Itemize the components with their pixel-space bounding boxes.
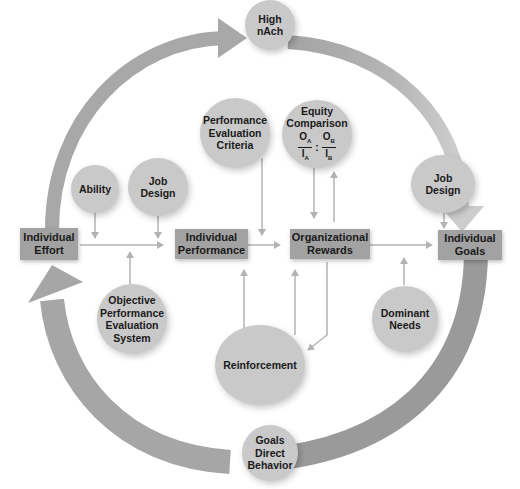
circle-label: Job bbox=[149, 175, 168, 188]
circle-label: Evaluation bbox=[105, 319, 158, 332]
box-organizational-rewards: Organizational Rewards bbox=[290, 229, 370, 259]
box-individual-goals: Individual Goals bbox=[438, 230, 502, 260]
equity-formula: OA IA : OB IB bbox=[298, 131, 336, 164]
circle-label: Design bbox=[425, 184, 460, 197]
circle-label: Evaluation bbox=[208, 127, 261, 140]
circle-label: System bbox=[113, 332, 150, 345]
o-a: O bbox=[299, 131, 307, 142]
connector-rewards-reinforcement bbox=[308, 262, 327, 350]
box-label: Individual bbox=[186, 231, 237, 244]
box-label: Individual bbox=[23, 231, 74, 244]
ratio-separator: : bbox=[315, 141, 319, 154]
circle-label: nAch bbox=[257, 25, 283, 38]
box-label: Goals bbox=[455, 245, 486, 258]
circle-label: Objective bbox=[108, 294, 155, 307]
circle-label: Needs bbox=[389, 319, 421, 332]
circle-goals-direct-behavior: Goals Direct Behavior bbox=[242, 425, 298, 481]
circle-equity-comparison: Equity Comparison OA IA : OB IB bbox=[282, 100, 352, 168]
box-individual-effort: Individual Effort bbox=[20, 228, 78, 260]
circle-job-design-right: Job Design bbox=[411, 155, 475, 213]
circle-label: Performance bbox=[100, 307, 164, 320]
sub: B bbox=[328, 155, 332, 161]
box-individual-performance: Individual Performance bbox=[175, 229, 248, 259]
circle-label: Behavior bbox=[248, 459, 293, 472]
box-label: Performance bbox=[178, 244, 245, 257]
circle-label: Dominant bbox=[381, 307, 429, 320]
circle-reinforcement: Reinforcement bbox=[215, 325, 305, 405]
circle-label: High bbox=[258, 13, 281, 26]
circle-performance-evaluation-criteria: Performance Evaluation Criteria bbox=[200, 98, 270, 168]
circle-label: Job bbox=[434, 172, 453, 185]
circle-label: Design bbox=[140, 187, 175, 200]
sub: B bbox=[331, 138, 335, 144]
box-label: Organizational bbox=[292, 231, 368, 244]
circle-label: Goals bbox=[255, 434, 284, 447]
circle-high-nach: High nAch bbox=[245, 0, 295, 50]
box-label: Rewards bbox=[307, 244, 353, 257]
circle-job-design-left: Job Design bbox=[128, 158, 188, 216]
box-label: Effort bbox=[34, 244, 63, 257]
o-b: O bbox=[323, 131, 331, 142]
circle-label: Criteria bbox=[217, 139, 254, 152]
sub: A bbox=[307, 138, 311, 144]
circle-label: Direct bbox=[255, 447, 285, 460]
circle-label: Reinforcement bbox=[223, 359, 297, 372]
box-label: Individual bbox=[444, 232, 495, 245]
circle-dominant-needs: Dominant Needs bbox=[372, 286, 438, 352]
circle-label: Ability bbox=[79, 183, 111, 196]
sub: A bbox=[304, 155, 308, 161]
circle-objective-performance-evaluation-system: Objective Performance Evaluation System bbox=[97, 284, 167, 354]
circle-label: Performance bbox=[203, 114, 267, 127]
circle-label: Comparison bbox=[286, 117, 347, 130]
fraction-b: OB IB bbox=[322, 131, 336, 164]
circle-ability: Ability bbox=[71, 165, 119, 213]
fraction-a: OA IA bbox=[298, 131, 312, 164]
circle-label: Equity bbox=[301, 105, 333, 118]
